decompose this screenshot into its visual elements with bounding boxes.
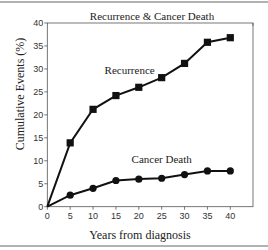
y-tick-label: 15: [33, 133, 43, 143]
series-group: [47, 34, 234, 207]
series-annotation: Cancer Death: [132, 153, 193, 165]
square-marker: [112, 92, 119, 99]
y-tick-label: 0: [38, 202, 43, 212]
circle-marker: [135, 176, 142, 183]
y-tick-label: 20: [33, 110, 43, 120]
chart-title: Recurrence & Cancer Death: [90, 10, 215, 22]
square-marker: [227, 34, 234, 41]
y-tick-label: 10: [33, 156, 43, 166]
circle-marker: [67, 192, 74, 199]
annotations: RecurrenceCancer Death: [105, 64, 193, 166]
x-tick-label: 0: [45, 211, 50, 221]
circle-marker: [181, 171, 188, 178]
x-tick-label: 15: [111, 211, 121, 221]
square-marker: [89, 106, 96, 113]
circle-marker: [227, 167, 234, 174]
y-tick-label: 40: [33, 18, 43, 28]
square-marker: [204, 39, 211, 46]
y-tick-label: 25: [33, 87, 43, 97]
y-tick-label: 5: [38, 179, 43, 189]
y-tick-label: 30: [33, 64, 43, 74]
cumulative-events-chart: 0510152025303540 0510152025303540 Recurr…: [0, 0, 268, 250]
x-tick-label: 20: [134, 211, 144, 221]
x-tick-label: 35: [202, 211, 212, 221]
x-tick-label: 5: [68, 211, 73, 221]
square-marker: [67, 139, 74, 146]
x-axis-label: Years from diagnosis: [89, 228, 191, 242]
y-axis-ticks: 0510152025303540: [33, 18, 253, 212]
y-axis-label: Cumulative Events (%): [13, 38, 27, 151]
circle-marker: [204, 167, 211, 174]
square-marker: [135, 84, 142, 91]
series-annotation: Recurrence: [105, 64, 155, 76]
circle-marker: [158, 175, 165, 182]
square-marker: [181, 60, 188, 67]
y-tick-label: 35: [33, 41, 43, 51]
square-marker: [158, 74, 165, 81]
x-tick-label: 25: [157, 211, 167, 221]
circle-marker: [89, 185, 96, 192]
x-axis-ticks: 0510152025303540: [45, 207, 236, 221]
x-tick-label: 10: [88, 211, 98, 221]
x-tick-label: 30: [180, 211, 190, 221]
circle-marker: [112, 177, 119, 184]
x-tick-label: 40: [225, 211, 235, 221]
